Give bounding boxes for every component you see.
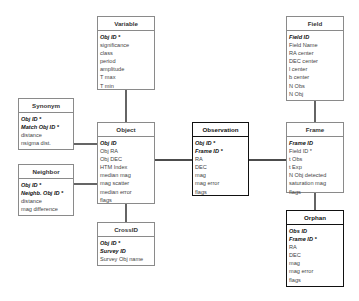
- attribute: mag difference: [21, 205, 71, 213]
- attribute: Obj ID *: [100, 33, 152, 41]
- entity-variable: Variable Obj ID * significance class per…: [97, 16, 155, 90]
- attribute: DEC: [195, 163, 246, 171]
- attribute: l center: [289, 65, 341, 73]
- attribute: nsigma dist.: [21, 139, 71, 147]
- entity-title: Variable: [98, 17, 154, 31]
- attribute: period: [100, 57, 152, 65]
- entity-title: CrossID: [98, 223, 154, 237]
- entity-title: Orphan: [287, 211, 343, 225]
- attribute: mag error: [289, 267, 341, 275]
- attribute: saturation mag: [289, 179, 341, 187]
- entity-field: Field Field ID Field Name RA center DEC …: [286, 16, 344, 101]
- attribute: distance: [21, 131, 71, 139]
- attribute: Frame ID: [289, 139, 341, 147]
- entity-title: Frame: [287, 123, 343, 137]
- attribute: DEC: [289, 251, 341, 259]
- entity-orphan: Orphan Obs ID Frame ID * RA DEC mag mag …: [286, 210, 344, 287]
- attribute: N Obs: [289, 82, 341, 90]
- entity-frame: Frame Frame ID Field ID * t Obs t Exp N …: [286, 122, 344, 193]
- attribute: HTM Index: [100, 163, 152, 171]
- attribute: Obj DEC: [100, 155, 152, 163]
- entity-neighbor: Neighbor Obj ID * Neighb. Obj ID * dista…: [18, 164, 74, 216]
- entity-synonym: Synonym Obj ID * Match Obj ID * distance…: [18, 98, 74, 150]
- attribute: Field ID: [289, 33, 341, 41]
- attribute: T max: [100, 73, 152, 81]
- attribute: Survey Obj name: [100, 255, 152, 263]
- attribute: Obj ID *: [21, 115, 71, 123]
- attribute: flags: [100, 196, 152, 204]
- entity-crossid: CrossID Obj ID * Survey ID Survey Obj na…: [97, 222, 155, 266]
- attribute: Survey ID: [100, 247, 152, 255]
- attribute: Obj RA: [100, 147, 152, 155]
- attribute: mag error: [195, 179, 246, 187]
- entity-title: Observation: [193, 123, 248, 137]
- entity-observation: Observation Obj ID * Frame ID * RA DEC m…: [192, 122, 249, 196]
- entity-title: Object: [98, 123, 154, 137]
- attribute: Obj ID *: [21, 181, 71, 189]
- attribute: distance: [21, 197, 71, 205]
- entity-object: Object Obj ID Obj RA Obj DEC HTM Index m…: [97, 122, 155, 204]
- attribute: flags: [289, 276, 341, 284]
- attribute: mag: [289, 259, 341, 267]
- attribute: flags: [195, 188, 246, 196]
- attribute: significance: [100, 41, 152, 49]
- attribute: Neighb. Obj ID *: [21, 189, 71, 197]
- attribute: amplitude: [100, 65, 152, 73]
- attribute: T min: [100, 82, 152, 90]
- attribute: N Obj detected: [289, 171, 341, 179]
- attribute: class: [100, 49, 152, 57]
- attribute: median mag: [100, 171, 152, 179]
- entity-title: Field: [287, 17, 343, 31]
- attribute: median error: [100, 188, 152, 196]
- attribute: t Exp: [289, 163, 341, 171]
- er-diagram: Variable Obj ID * significance class per…: [0, 0, 359, 301]
- attribute: Field ID *: [289, 147, 341, 155]
- attribute: RA: [289, 243, 341, 251]
- attribute: RA center: [289, 49, 341, 57]
- attribute: Obj ID: [100, 139, 152, 147]
- entity-title: Neighbor: [19, 165, 73, 179]
- attribute: Obj ID *: [195, 139, 246, 147]
- attribute: Obs ID: [289, 227, 341, 235]
- attribute: Match Obj ID *: [21, 123, 71, 131]
- attribute: Obj ID *: [100, 239, 152, 247]
- attribute: RA: [195, 155, 246, 163]
- attribute: b center: [289, 73, 341, 81]
- attribute: t Obs: [289, 155, 341, 163]
- attribute: Frame ID *: [195, 147, 246, 155]
- attribute: mag: [195, 171, 246, 179]
- attribute: Frame ID *: [289, 235, 341, 243]
- attribute: Field Name: [289, 41, 341, 49]
- attribute: DEC center: [289, 57, 341, 65]
- attribute: flags: [289, 188, 341, 196]
- entity-title: Synonym: [19, 99, 73, 113]
- attribute: N Obj: [289, 90, 341, 98]
- attribute: mag scatter: [100, 179, 152, 187]
